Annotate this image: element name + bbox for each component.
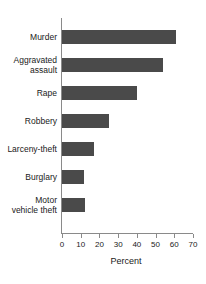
- category-label: Burglary: [0, 172, 57, 182]
- x-axis-tick-label: 50: [146, 240, 166, 250]
- plot-area: 010203040506070MurderAggravated assaultR…: [0, 0, 206, 284]
- x-axis-tick-label: 10: [71, 240, 91, 250]
- x-axis-tick: [193, 234, 194, 238]
- bar: [62, 170, 84, 184]
- bar: [62, 58, 163, 72]
- bar: [62, 86, 137, 100]
- x-axis-tick-label: 40: [127, 240, 147, 250]
- x-axis-tick: [118, 234, 119, 238]
- bar: [62, 114, 109, 128]
- category-label: Murder: [0, 32, 57, 42]
- bar: [62, 198, 85, 212]
- x-axis-tick: [137, 234, 138, 238]
- x-axis-tick-label: 20: [89, 240, 109, 250]
- category-label: Robbery: [0, 116, 57, 126]
- x-axis-tick-label: 60: [164, 240, 184, 250]
- x-axis-tick-label: 0: [52, 240, 72, 250]
- x-axis-tick: [81, 234, 82, 238]
- x-axis-tick-label: 30: [108, 240, 128, 250]
- bar: [62, 142, 94, 156]
- x-axis-tick: [99, 234, 100, 238]
- x-axis-title: Percent: [0, 256, 206, 267]
- category-label: Larceny-theft: [0, 144, 57, 154]
- category-label: Rape: [0, 88, 57, 98]
- x-axis-tick-label: 70: [183, 240, 203, 250]
- x-axis-tick: [174, 234, 175, 238]
- category-label: Aggravated assault: [0, 55, 57, 75]
- bar-chart-figure: 010203040506070MurderAggravated assaultR…: [0, 0, 206, 284]
- x-axis-tick: [156, 234, 157, 238]
- bar: [62, 30, 176, 44]
- category-label: Motor vehicle theft: [0, 195, 57, 215]
- x-axis-tick: [62, 234, 63, 238]
